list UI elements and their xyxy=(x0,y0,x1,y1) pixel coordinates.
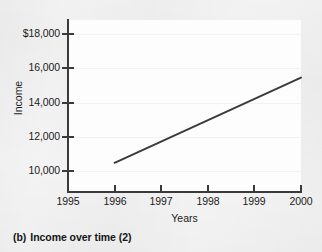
x-tick-label: 1996 xyxy=(93,195,137,207)
gridline xyxy=(69,68,301,69)
x-axis-title: Years xyxy=(68,212,301,224)
x-tick-mark xyxy=(253,185,255,193)
y-tick-mark xyxy=(62,67,74,69)
x-tick-label: 1999 xyxy=(232,195,276,207)
y-tick-mark xyxy=(62,33,74,35)
y-tick-mark xyxy=(62,170,74,172)
y-tick-label: 16,000 xyxy=(0,61,60,73)
x-axis-line xyxy=(67,191,301,193)
x-tick-label: 2000 xyxy=(279,195,322,207)
gridline xyxy=(69,103,301,104)
y-tick-label: 10,000 xyxy=(0,164,60,176)
plot-area xyxy=(68,20,301,192)
x-tick-label: 1997 xyxy=(139,195,183,207)
caption-marker: (b) xyxy=(13,231,26,243)
y-axis-line xyxy=(67,19,69,193)
figure-caption: (b)Income over time (2) xyxy=(13,231,131,243)
x-tick-mark xyxy=(160,185,162,193)
y-tick-mark xyxy=(62,102,74,104)
gridline xyxy=(69,137,301,138)
x-tick-mark xyxy=(300,185,302,193)
gridline xyxy=(69,34,301,35)
x-tick-mark xyxy=(207,185,209,193)
gridline xyxy=(69,171,301,172)
caption-text: Income over time (2) xyxy=(30,231,131,243)
y-tick-label: 14,000 xyxy=(0,96,60,108)
figure-income-over-time: 10,00012,00014,00016,000$18,000 19951996… xyxy=(0,0,322,252)
y-tick-label: $18,000 xyxy=(0,27,60,39)
y-tick-label: 12,000 xyxy=(0,130,60,142)
x-tick-label: 1998 xyxy=(186,195,230,207)
x-tick-mark xyxy=(114,185,116,193)
y-axis-title: Income xyxy=(12,68,24,128)
y-tick-mark xyxy=(62,136,74,138)
x-tick-label: 1995 xyxy=(46,195,90,207)
